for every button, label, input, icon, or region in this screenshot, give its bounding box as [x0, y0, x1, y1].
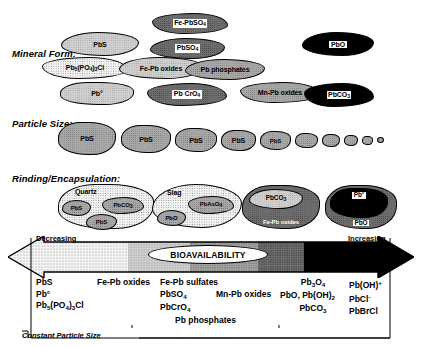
mineral-blob-pb-phosphates-label: Pb phosphates: [201, 66, 250, 73]
table-cell-pbcl-minus: PbCl-: [349, 291, 382, 305]
table-col-pb-oxides-carbonate: Pb3O4 PbO, Pb(OH)2 PbCO3: [280, 277, 346, 316]
mineral-blob-pbco3: PbCO3: [304, 83, 374, 107]
mineral-blob-pb-cro4: Pb CrO4: [147, 83, 227, 106]
mineral-blob-fe-pbso4: Fe-PbSO4: [152, 13, 228, 34]
particle-size-grain-1-label: PbS: [80, 135, 93, 142]
mineral-blob-chloropyromorphite: Pb5(PO4)3Cl: [42, 57, 128, 79]
particle-size-grain-8: [344, 135, 358, 146]
figure-root: Mineral Form: Particle Size: Rinding/Enc…: [0, 0, 422, 347]
rind-inclusion-quartz-pbs-1-label: PbS: [71, 205, 82, 211]
table-cell-pbo-pboh2: PbO, Pb(OH)2: [280, 290, 346, 303]
table-cell-chloropyromorphite: Pb5(PO4)3Cl: [36, 300, 84, 313]
particle-size-grain-1: PbS: [58, 122, 116, 155]
rind-inclusion-quartz-pbs-1: PbS: [62, 200, 91, 216]
rind-inclusion-fe-pb-oxides-pbco3-label: PbCO3: [266, 195, 286, 202]
table-col-most-bioavailable: Pb(OH)+ PbCl- PbBrCl: [349, 277, 382, 317]
table-cell-pbs: PbS: [36, 277, 84, 289]
rind-host-label-slag: Slag: [167, 189, 181, 196]
mineral-blob-mn-pb-oxides-label: Mn-Pb oxides: [258, 89, 302, 96]
mineral-blob-fe-pb-oxides-label: Fe-Pb oxides: [140, 65, 182, 72]
rind-inclusion-slag-pbaso4-label: PbAsO4: [200, 201, 222, 208]
particle-size-grain-5: PbS: [260, 131, 291, 150]
pb-phosphates-span-label: Pb phosphates: [131, 315, 280, 325]
mineral-blob-pbs: PbS: [61, 32, 139, 56]
rind-inclusion-quartz-pbco3-label: PbCO3: [113, 202, 132, 209]
mineral-blob-pbso4: PbSO4: [150, 38, 225, 59]
mineral-blob-pbo: PbO: [302, 32, 374, 56]
particle-size-grain-3-label: PbS: [189, 137, 202, 144]
table-cell-fe-pb-oxides: Fe-Pb oxides: [97, 277, 150, 289]
mineral-blob-pbco3-label: PbCO3: [327, 91, 352, 99]
mineral-blob-chloropyromorphite-label: Pb5(PO4)3Cl: [66, 64, 104, 72]
rind-host-label-fe-pb-oxides: Fe-Pb oxides: [263, 219, 299, 225]
mineral-blob-pb-metal-label: Pb°: [91, 90, 102, 97]
mineral-blob-fe-pbso4-label: Fe-PbSO4: [173, 19, 208, 27]
rind-inclusion-quartz-pbs-2: PbS: [86, 214, 117, 230]
table-cell-pb-metal: Pb°: [36, 289, 84, 301]
particle-size-grain-3: PbS: [175, 128, 217, 152]
table-col-mn-pb-oxides: Mn-Pb oxides: [216, 289, 271, 301]
rind-inclusion-quartz-pbs-2-label: PbS: [96, 219, 107, 225]
table-cell-pbso4: PbSO4: [160, 289, 218, 302]
table-col-fe-pb-oxides: Fe-Pb oxides: [97, 277, 150, 289]
particle-size-grain-4: PbS: [221, 130, 256, 151]
particle-size-grain-2: PbS: [121, 125, 171, 153]
table-cell-mn-pb-oxides: Mn-Pb oxides: [216, 289, 271, 301]
rind-inclusion-pbo-pb-metal: Pb°: [330, 188, 388, 218]
particle-size-grain-6: [295, 133, 318, 148]
rind-inclusion-fe-pb-oxides-pbco3: PbCO3: [249, 189, 303, 209]
mineral-blob-pb-cro4-label: Pb CrO4: [172, 90, 201, 98]
table-cell-pbbrcl: PbBrCl: [349, 306, 382, 318]
table-cell-fe-pb-sulfates: Fe-Pb sulfates: [160, 277, 218, 289]
rind-inclusion-slag-pbo: PbO: [157, 210, 186, 226]
mineral-blob-pbso4-label: PbSO4: [175, 44, 199, 52]
rind-inclusion-pbo-pb-metal-label: Pb°: [352, 192, 366, 199]
table-cell-pbcro4: PbCrO4: [160, 302, 218, 315]
row-label-rinding-encapsulation: Rinding/Encapsulation:: [12, 173, 120, 184]
table-cell-pb3o4: Pb3O4: [280, 277, 346, 290]
mineral-blob-pbs-label: PbS: [93, 41, 106, 48]
particle-size-grain-4-label: PbS: [232, 137, 245, 144]
rind-host-label-quartz: Quartz: [75, 188, 97, 195]
table-cell-pbco3: PbCO3: [280, 303, 346, 316]
mineral-blob-pb-metal: Pb°: [60, 82, 134, 105]
particle-size-grain-10: [377, 137, 384, 143]
mineral-blob-pb-phosphates: Pb phosphates: [185, 59, 265, 80]
particle-size-grain-5-label: PbS: [270, 138, 281, 144]
rind-inclusion-slag-pbo-label: PbO: [165, 215, 177, 221]
particle-size-grain-9: [362, 136, 373, 145]
particle-size-grain-2-label: PbS: [139, 136, 152, 143]
table-col-least-bioavailable: PbS Pb° Pb5(PO4)3Cl: [36, 277, 84, 313]
constant-particle-size-footnote: Constant Particle Size: [22, 331, 101, 340]
rind-host-label-pbo: PbO: [353, 220, 369, 227]
rind-inclusion-slag-pbaso4: PbAsO4: [188, 196, 234, 214]
bioavailability-table: PbS Pb° Pb5(PO4)3Cl Fe-Pb oxides Fe-Pb s…: [8, 277, 414, 339]
mineral-blob-pbo-label: PbO: [329, 41, 346, 48]
table-cell-pboh-plus: Pb(OH)+: [349, 277, 382, 291]
particle-size-grain-7: [322, 134, 340, 147]
rind-inclusion-quartz-pbco3: PbCO3: [102, 197, 144, 214]
